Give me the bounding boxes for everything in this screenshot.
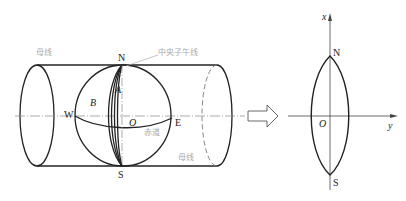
projected-origin-label: O bbox=[319, 119, 326, 129]
equator-curve bbox=[75, 116, 172, 128]
north-label: N bbox=[118, 53, 125, 63]
east-label: E bbox=[175, 118, 181, 128]
diagram-svg bbox=[0, 0, 406, 201]
point-b-label: B bbox=[90, 98, 96, 108]
sphere-outline bbox=[75, 65, 171, 166]
cylinder-right-hidden-arc bbox=[202, 65, 217, 166]
projection-plane bbox=[288, 13, 398, 190]
y-axis-label: y bbox=[388, 121, 392, 131]
projection-diagram: 母线 中央子午线 N S W E O A B 赤道 母线 x y N S O bbox=[0, 0, 406, 201]
transform-arrow-icon bbox=[248, 105, 278, 127]
generatrix-label-bottom: 母线 bbox=[178, 154, 194, 162]
south-label: S bbox=[118, 170, 124, 180]
projected-south-label: S bbox=[333, 178, 339, 188]
projected-north-label: N bbox=[333, 48, 340, 58]
x-axis-arrow-icon bbox=[328, 13, 332, 21]
x-axis-label: x bbox=[322, 12, 326, 22]
point-a-label: A bbox=[115, 85, 121, 95]
meridian-4 bbox=[118, 65, 123, 166]
cylinder bbox=[20, 65, 232, 166]
west-label: W bbox=[64, 110, 73, 120]
cylinder-left-ellipse bbox=[20, 65, 54, 166]
y-axis-arrow-icon bbox=[390, 114, 398, 118]
cylinder-right-arc bbox=[217, 65, 232, 166]
central-meridian-label: 中央子午线 bbox=[158, 49, 198, 57]
origin-label: O bbox=[129, 118, 136, 128]
equator-label: 赤道 bbox=[144, 129, 160, 137]
sphere bbox=[75, 65, 172, 166]
generatrix-label-top: 母线 bbox=[36, 49, 52, 57]
